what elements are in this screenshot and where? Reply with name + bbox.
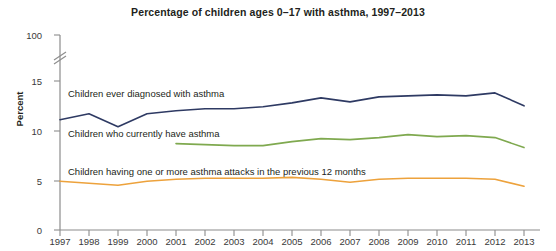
series-line-attacks-12-months [60,177,524,186]
series-line-currently-have [176,135,524,148]
plot-area [0,0,556,251]
asthma-line-chart: Percentage of children ages 0–17 with as… [0,0,556,251]
series-line-ever-diagnosed [60,93,524,127]
x-tick-marks [60,230,524,236]
y-tick-marks [54,35,60,230]
